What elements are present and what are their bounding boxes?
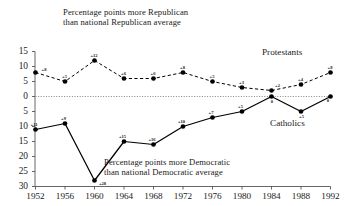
series-line-catholics	[36, 97, 331, 181]
data-point	[210, 79, 215, 84]
x-tick-label: 1956	[52, 191, 78, 201]
data-point-label: +8	[176, 65, 190, 70]
data-point	[92, 58, 97, 63]
y-tick-label: 0	[8, 91, 28, 101]
y-tick-label: 5	[8, 76, 28, 86]
x-tick-label: 1960	[82, 191, 108, 201]
data-point	[33, 127, 38, 132]
x-tick-label: 1972	[170, 191, 196, 201]
data-point-label: +6	[146, 71, 160, 76]
y-tick-label: 25	[8, 166, 28, 176]
x-tick-label: 1984	[259, 191, 285, 201]
data-point-label: +8	[37, 67, 51, 72]
data-point-label: 0	[265, 99, 279, 104]
data-point-label: +5	[234, 104, 248, 109]
y-tick-label: 15	[8, 136, 28, 146]
data-point-label: +5	[295, 114, 309, 119]
y-tick-label: 15	[8, 46, 28, 56]
data-point	[122, 76, 127, 81]
data-point-label: +11	[27, 122, 41, 127]
data-point-label: +12	[87, 53, 101, 58]
data-point	[151, 142, 156, 147]
y-tick-label: 10	[8, 121, 28, 131]
data-point-label: +15	[116, 134, 130, 139]
y-tick-label: 30	[8, 181, 28, 191]
x-tick-label: 1988	[288, 191, 314, 201]
data-point-label: +4	[294, 77, 308, 82]
data-point	[63, 79, 68, 84]
data-point-label: +10	[175, 119, 189, 124]
data-point-label: +5	[58, 74, 72, 79]
data-point-label: +5	[205, 74, 219, 79]
data-point-label: +2	[271, 83, 285, 88]
x-tick-label: 1976	[200, 191, 226, 201]
data-point-label: +3	[235, 80, 249, 85]
data-point-label: +7	[204, 110, 218, 115]
y-tick-label: 20	[8, 151, 28, 161]
data-point	[240, 85, 245, 90]
x-tick-label: 1952	[23, 191, 49, 201]
data-point-label: +16	[145, 137, 159, 142]
data-point-label: +9	[57, 116, 71, 121]
data-point	[122, 139, 127, 144]
y-tick-label: 5	[8, 106, 28, 116]
data-point-label: +8	[323, 65, 337, 70]
data-point-label: +6	[117, 71, 131, 76]
data-point-label: 0	[321, 98, 335, 103]
data-point	[181, 70, 186, 75]
data-point	[240, 109, 245, 114]
y-tick-label: 10	[8, 61, 28, 71]
x-tick-label: 1964	[111, 191, 137, 201]
data-point	[210, 115, 215, 120]
data-point-label: +28	[96, 181, 110, 186]
data-point	[269, 88, 274, 93]
data-point	[328, 70, 333, 75]
x-tick-label: 1992	[318, 191, 344, 201]
data-point	[181, 124, 186, 129]
data-point	[151, 76, 156, 81]
x-tick-label: 1968	[141, 191, 167, 201]
x-tick-label: 1980	[229, 191, 255, 201]
data-point	[63, 121, 68, 126]
data-point	[299, 82, 304, 87]
